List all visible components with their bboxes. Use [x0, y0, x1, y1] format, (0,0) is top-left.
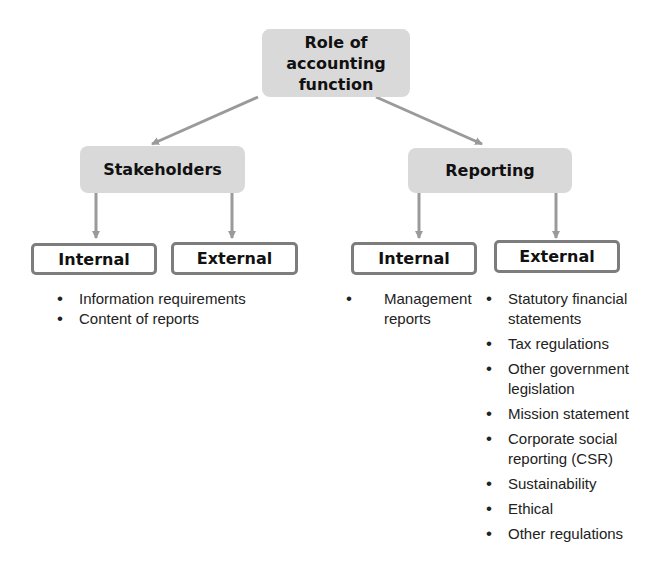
stakeholders-internal-label: Internal [58, 250, 129, 269]
list-item: Content of reports [55, 309, 295, 329]
reporting-internal-label: Internal [378, 249, 449, 268]
reporting-label: Reporting [445, 161, 534, 180]
stakeholders-external-label: External [197, 249, 272, 268]
list-item: Other regulations [484, 524, 644, 544]
root-label-line2: function [299, 74, 374, 95]
list-item: Other government legislation [484, 359, 644, 399]
reporting-external-label: External [519, 247, 594, 266]
stakeholders-internal-node: Internal [31, 243, 157, 275]
stakeholders-node: Stakeholders [80, 146, 245, 193]
reporting-external-list: Statutory financial statements Tax regul… [484, 289, 644, 549]
stakeholders-label: Stakeholders [103, 160, 222, 179]
list-item: Mission statement [484, 404, 644, 424]
root-label-line1: Role of accounting [262, 32, 410, 74]
stakeholders-external-node: External [171, 242, 298, 275]
reporting-external-node: External [494, 240, 620, 273]
list-item: Information requirements [55, 289, 295, 309]
list-item: Sustainability [484, 474, 644, 494]
list-item: Ethical [484, 499, 644, 519]
reporting-node: Reporting [408, 148, 572, 193]
root-node: Role of accounting function [262, 29, 410, 97]
list-item: Management reports [346, 289, 464, 329]
reporting-internal-list: Management reports [346, 289, 471, 334]
list-item: Statutory financial statements [484, 289, 644, 329]
reporting-internal-node: Internal [351, 242, 477, 275]
list-item: Corporate social reporting (CSR) [484, 429, 644, 469]
list-item: Tax regulations [484, 334, 644, 354]
stakeholders-internal-list: Information requirements Content of repo… [55, 289, 295, 329]
